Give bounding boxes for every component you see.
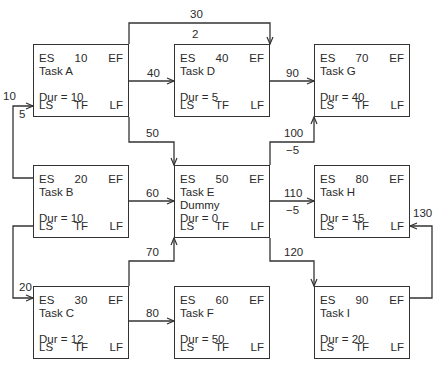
- es-label: ES: [320, 52, 340, 65]
- task-subtitle: Dummy: [180, 199, 220, 212]
- es-label: ES: [39, 52, 59, 65]
- task-box-a: ES10EF Task A Dur = 10 LSTFLF: [33, 44, 129, 117]
- link-30-line: [129, 23, 270, 44]
- ef-label: EF: [103, 294, 123, 307]
- ef-label: EF: [384, 173, 404, 186]
- ls-label: LS: [320, 99, 340, 112]
- link-120-number: 120: [284, 246, 303, 259]
- ef-label: EF: [244, 52, 264, 65]
- task-number: 60: [207, 294, 237, 307]
- precedence-diagram: ES10EF Task A Dur = 10 LSTFLF ES20EF Tas…: [0, 0, 442, 368]
- link-130-line: [410, 226, 432, 298]
- es-label: ES: [180, 52, 200, 65]
- task-number: 70: [347, 52, 377, 65]
- link-30-number: 30: [190, 8, 203, 21]
- task-name: Task F: [180, 307, 214, 320]
- tf-label: TF: [207, 220, 237, 233]
- ls-label: LS: [39, 341, 59, 354]
- ef-label: EF: [244, 294, 264, 307]
- link-40-number: 40: [147, 67, 160, 80]
- link-100-number: 100: [284, 127, 303, 140]
- task-number: 90: [347, 294, 377, 307]
- link-30-lag: 2: [192, 28, 198, 41]
- ls-label: LS: [320, 341, 340, 354]
- task-name: Task A: [39, 65, 73, 78]
- task-box-f: ES60EF Task F Dur = 50 LSTFLF: [174, 286, 270, 359]
- lf-label: LF: [103, 220, 123, 233]
- task-number: 40: [207, 52, 237, 65]
- task-number: 30: [66, 294, 96, 307]
- tf-label: TF: [66, 341, 96, 354]
- task-name: Task H: [320, 186, 355, 199]
- tf-label: TF: [347, 99, 377, 112]
- ls-label: LS: [320, 220, 340, 233]
- task-box-i: ES90EF Task I Dur = 20 LSTFLF: [314, 286, 410, 359]
- task-box-e: ES50EF Task E Dummy Dur = 0 LSTFLF: [174, 165, 270, 238]
- task-box-h: ES80EF Task H Dur = 15 LSTFLF: [314, 165, 410, 238]
- tf-label: TF: [207, 341, 237, 354]
- task-name: Task I: [320, 307, 350, 320]
- lf-label: LF: [384, 341, 404, 354]
- link-130-number: 130: [413, 207, 432, 220]
- es-label: ES: [39, 294, 59, 307]
- ef-label: EF: [103, 173, 123, 186]
- ls-label: LS: [180, 99, 200, 112]
- es-label: ES: [39, 173, 59, 186]
- link-70-number: 70: [146, 246, 159, 259]
- ls-label: LS: [180, 341, 200, 354]
- link-110-number: 110: [284, 187, 302, 200]
- ls-label: LS: [180, 220, 200, 233]
- ef-label: EF: [103, 52, 123, 65]
- tf-label: TF: [347, 341, 377, 354]
- ef-label: EF: [244, 173, 264, 186]
- task-name: Task B: [39, 186, 74, 199]
- es-label: ES: [320, 173, 340, 186]
- link-110-lag: −5: [286, 204, 299, 217]
- link-80-number: 80: [146, 307, 159, 320]
- es-label: ES: [180, 294, 200, 307]
- lf-label: LF: [103, 99, 123, 112]
- task-number: 80: [347, 173, 377, 186]
- link-10-lag: 5: [19, 108, 25, 121]
- lf-label: LF: [384, 220, 404, 233]
- task-name: Task C: [39, 307, 74, 320]
- tf-label: TF: [66, 99, 96, 112]
- task-name: Task D: [180, 65, 215, 78]
- lf-label: LF: [244, 341, 264, 354]
- lf-label: LF: [244, 99, 264, 112]
- task-box-g: ES70EF Task G Dur = 40 LSTFLF: [314, 44, 410, 117]
- ls-label: LS: [39, 99, 59, 112]
- link-100-lag: −5: [286, 144, 299, 157]
- lf-label: LF: [384, 99, 404, 112]
- task-number: 50: [207, 173, 237, 186]
- tf-label: TF: [347, 220, 377, 233]
- lf-label: LF: [103, 341, 123, 354]
- es-label: ES: [320, 294, 340, 307]
- task-box-c: ES30EF Task C Dur = 12 LSTFLF: [33, 286, 129, 359]
- task-box-d: ES40EF Task D Dur = 5 LSTFLF: [174, 44, 270, 117]
- link-20-number: 20: [19, 281, 32, 294]
- link-60-number: 60: [146, 187, 159, 200]
- link-50-line: [129, 117, 174, 165]
- ef-label: EF: [384, 294, 404, 307]
- link-100-line: [270, 117, 314, 165]
- task-number: 20: [66, 173, 96, 186]
- tf-label: TF: [66, 220, 96, 233]
- link-50-number: 50: [146, 127, 159, 140]
- task-box-b: ES20EF Task B Dur = 10 LSTFLF: [33, 165, 129, 238]
- ef-label: EF: [384, 52, 404, 65]
- link-90-number: 90: [286, 67, 299, 80]
- task-number: 10: [66, 52, 96, 65]
- link-10-number: 10: [3, 90, 16, 103]
- tf-label: TF: [207, 99, 237, 112]
- ls-label: LS: [39, 220, 59, 233]
- task-name: Task E: [180, 186, 215, 199]
- lf-label: LF: [244, 220, 264, 233]
- es-label: ES: [180, 173, 200, 186]
- task-name: Task G: [320, 65, 356, 78]
